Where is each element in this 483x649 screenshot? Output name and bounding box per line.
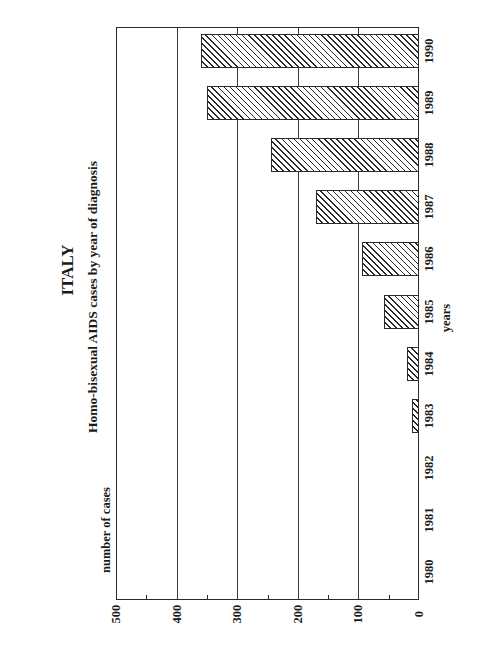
x-tick-label: 1981 [422, 507, 437, 532]
y-tick-label: 300 [230, 605, 245, 624]
x-tick-label: 1990 [422, 39, 437, 64]
x-tick-label: 1982 [422, 455, 437, 480]
x-tick-label: 1986 [422, 247, 437, 272]
y-axis-label: number of cases [99, 487, 114, 573]
x-tick-label: 1983 [422, 403, 437, 428]
x-tick-label: 1985 [422, 299, 437, 324]
plot-frame [116, 27, 419, 600]
y-tick-label: 200 [290, 605, 305, 624]
y-tick-label: 0 [412, 611, 427, 617]
chart-title: ITALY [58, 244, 78, 295]
x-tick-label: 1987 [422, 195, 437, 220]
x-tick-label: 1984 [422, 351, 437, 376]
x-tick-label: 1988 [422, 143, 437, 168]
chart-subtitle: Homo-bisexual AIDS cases by year of diag… [85, 161, 101, 433]
y-tick-label: 100 [351, 605, 366, 624]
y-tick-label: 400 [169, 605, 184, 624]
x-tick-label: 1989 [422, 91, 437, 116]
x-tick-label: 1980 [422, 559, 437, 584]
y-tick-label: 500 [109, 605, 124, 624]
x-axis-label: years [439, 304, 454, 332]
